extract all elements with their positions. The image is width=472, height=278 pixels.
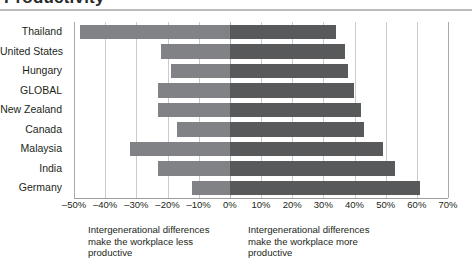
bar-negative xyxy=(130,142,230,156)
category-axis-labels: ThailandUnited StatesHungaryGLOBALNew Ze… xyxy=(0,22,68,198)
caption-line: make the workplace more xyxy=(248,236,398,248)
bar-positive xyxy=(230,103,361,117)
caption-line: make the workplace less xyxy=(88,236,238,248)
bar-row xyxy=(74,100,448,120)
category-label: New Zealand xyxy=(0,100,68,120)
bar-row xyxy=(74,61,448,81)
chart-title: Productivity xyxy=(0,0,472,8)
caption-line: Intergenerational differences xyxy=(248,224,398,236)
bar-positive xyxy=(230,122,364,136)
category-label: India xyxy=(0,159,68,179)
bar-row xyxy=(74,42,448,62)
bar-row xyxy=(74,139,448,159)
bar-positive xyxy=(230,25,336,39)
category-label: GLOBAL xyxy=(0,81,68,101)
bar-positive xyxy=(230,181,420,195)
bar-positive xyxy=(230,161,395,175)
category-label: United States xyxy=(0,42,68,62)
category-label: Malaysia xyxy=(0,139,68,159)
caption-less-productive: Intergenerational differencesmake the wo… xyxy=(88,224,238,259)
bar-negative xyxy=(171,64,230,78)
category-label: Hungary xyxy=(0,61,68,81)
bar-row xyxy=(74,178,448,198)
category-label: Germany xyxy=(0,178,68,198)
caption-line: productive xyxy=(88,247,238,259)
bar-positive xyxy=(230,83,355,97)
category-label: Thailand xyxy=(0,22,68,42)
chart-title-clipped: Productivity xyxy=(0,0,472,8)
caption-more-productive: Intergenerational differencesmake the wo… xyxy=(248,224,398,259)
bar-row xyxy=(74,120,448,140)
bar-rows xyxy=(74,22,448,198)
bar-negative xyxy=(161,44,230,58)
bar-row xyxy=(74,159,448,179)
bar-negative xyxy=(158,161,230,175)
bar-positive xyxy=(230,64,348,78)
bar-negative xyxy=(192,181,229,195)
bar-negative xyxy=(80,25,230,39)
bar-positive xyxy=(230,44,345,58)
x-tick-label: 70% xyxy=(425,199,471,210)
bar-negative xyxy=(158,103,230,117)
bar-negative xyxy=(177,122,230,136)
category-label: Canada xyxy=(0,120,68,140)
bar-positive xyxy=(230,142,383,156)
bar-row xyxy=(74,81,448,101)
bar-negative xyxy=(158,83,230,97)
x-axis-tick-labels: –50%–40%–30%–20%–10%0%10%20%30%40%50%60%… xyxy=(0,199,472,213)
productivity-diverging-bar-chart: Productivity ThailandUnited StatesHungar… xyxy=(0,0,472,278)
caption-line: Intergenerational differences xyxy=(88,224,238,236)
bar-row xyxy=(74,22,448,42)
caption-line: productive xyxy=(248,247,398,259)
plot-area xyxy=(74,22,448,198)
header-divider-rule xyxy=(0,9,472,11)
gridline xyxy=(448,22,449,198)
